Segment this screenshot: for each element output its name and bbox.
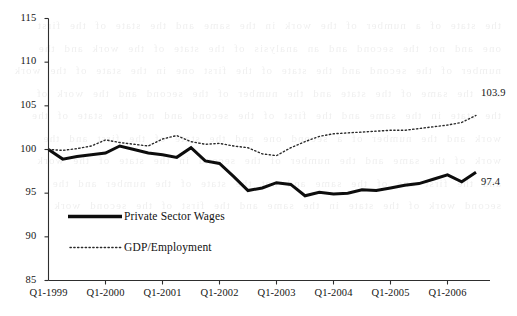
y-tick-label-115: 115 xyxy=(11,12,37,23)
chart-figure: the state of a number of the work in the… xyxy=(0,0,517,316)
y-tick-label-90: 90 xyxy=(11,230,37,241)
y-tick-label-100: 100 xyxy=(11,143,37,154)
end-label-gdp-employment: 103.9 xyxy=(481,87,506,98)
legend-item-private-sector-wages: Private Sector Wages xyxy=(124,210,225,222)
x-tick-label-Q1-2000: Q1-2000 xyxy=(75,287,137,298)
x-tick-label-Q1-2002: Q1-2002 xyxy=(189,287,251,298)
y-tick-label-85: 85 xyxy=(11,274,37,285)
x-tick-label-Q1-2001: Q1-2001 xyxy=(132,287,194,298)
chart-plot-area xyxy=(0,0,517,316)
legend-item-gdp-employment: GDP/Employment xyxy=(124,241,212,253)
x-tick-label-Q1-2005: Q1-2005 xyxy=(360,287,422,298)
y-tick-label-105: 105 xyxy=(11,99,37,110)
y-tick-label-95: 95 xyxy=(11,186,37,197)
x-tick-label-Q1-2003: Q1-2003 xyxy=(246,287,308,298)
end-label-private-sector-wages: 97.4 xyxy=(481,176,500,187)
x-tick-label-Q1-2004: Q1-2004 xyxy=(303,287,365,298)
y-tick-label-110: 110 xyxy=(11,55,37,66)
x-tick-label-Q1-2006: Q1-2006 xyxy=(417,287,479,298)
x-tick-label-Q1-1999: Q1-1999 xyxy=(18,287,80,298)
